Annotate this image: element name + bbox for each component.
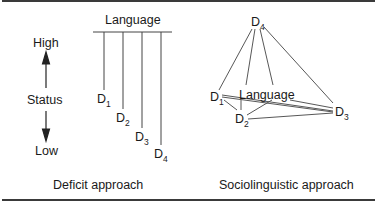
deficit-d2-label: D2	[116, 111, 130, 126]
status-high-label: High	[33, 36, 59, 50]
deficit-d4-label: D4	[154, 147, 168, 162]
up-arrow-icon	[43, 52, 50, 64]
socio-d1-label: D1	[210, 90, 224, 105]
socio-d3-label: D3	[335, 105, 349, 120]
sociolinguistic-lines	[219, 27, 333, 119]
d1-d2	[224, 100, 237, 110]
socio-d4-label: D4	[251, 15, 265, 30]
deficit-d1-label: D1	[97, 92, 111, 107]
deficit-language-label: Language	[105, 13, 161, 27]
deficit-caption: Deficit approach	[53, 178, 143, 192]
d2-d3	[248, 113, 333, 119]
deficit-lines	[93, 32, 172, 145]
socio-language-label: Language	[239, 88, 295, 102]
down-arrow-icon	[43, 129, 50, 141]
socio-d2-label: D2	[235, 112, 249, 127]
deficit-d3-label: D3	[135, 130, 149, 145]
d4-lang-b	[260, 29, 273, 85]
bottom-rule	[2, 199, 375, 201]
status-label: Status	[27, 93, 62, 107]
sociolinguistic-caption: Sociolinguistic approach	[219, 178, 354, 192]
status-low-label: Low	[35, 144, 58, 158]
